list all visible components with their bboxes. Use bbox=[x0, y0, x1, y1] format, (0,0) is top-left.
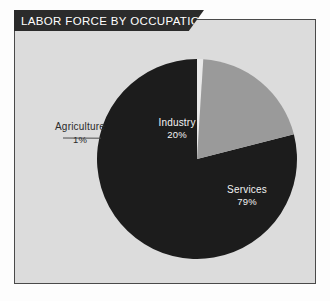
panel-title-banner: LABOR FORCE BY OCCUPATION bbox=[14, 10, 204, 31]
page-root: Industry 20% Services 79% Agriculture 1%… bbox=[0, 0, 330, 301]
chart-panel: Industry 20% Services 79% Agriculture 1% bbox=[14, 19, 316, 284]
pie-chart-svg bbox=[15, 20, 317, 285]
panel-title: LABOR FORCE BY OCCUPATION bbox=[14, 15, 209, 27]
pie-chart: Industry 20% Services 79% Agriculture 1% bbox=[15, 20, 317, 285]
